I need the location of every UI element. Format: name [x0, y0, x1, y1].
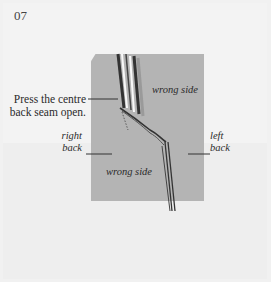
label-right-back-line-2: back — [54, 142, 82, 154]
label-left-back-line-1: left — [210, 130, 240, 142]
label-right-back-line-1: right — [54, 130, 82, 142]
instruction-line-2: back seam open. — [8, 106, 86, 119]
instruction-text: Press the centre back seam open. — [8, 93, 86, 119]
label-wrong-side-top: wrong side — [152, 84, 198, 96]
label-left-back: left back — [210, 130, 240, 154]
label-left-back-line-2: back — [210, 142, 240, 154]
label-wrong-side-bottom: wrong side — [106, 166, 152, 178]
instruction-line-1: Press the centre — [8, 93, 86, 106]
label-right-back: right back — [54, 130, 82, 154]
